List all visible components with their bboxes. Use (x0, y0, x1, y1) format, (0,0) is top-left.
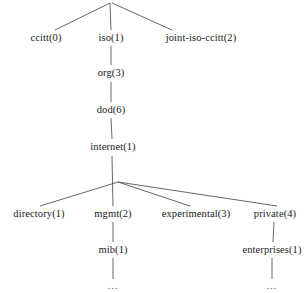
tree-edge (273, 222, 274, 242)
tree-node-directory: directory(1) (13, 209, 64, 220)
tree-edge (40, 182, 118, 206)
tree-edge (110, 3, 111, 30)
tree-node-joint-iso-ccitt: joint-iso-ccitt(2) (166, 33, 237, 44)
tree-node-mib-more: ... (108, 281, 119, 291)
tree-edge (118, 182, 190, 206)
tree-node-enterprises: enterprises(1) (242, 245, 301, 256)
tree-node-dod: dod(6) (97, 105, 126, 116)
tree-node-private: private(4) (254, 209, 296, 220)
tree-node-enterprises-more: ... (267, 281, 278, 291)
tree-edge (112, 3, 172, 30)
tree-node-mgmt: mgmt(2) (94, 209, 131, 220)
tree-edge (118, 182, 277, 206)
tree-edge (112, 156, 113, 206)
tree-node-experimental: experimental(3) (162, 209, 231, 220)
tree-node-org: org(3) (98, 68, 125, 79)
tree-node-mib: mib(1) (98, 245, 127, 256)
tree-edge (55, 3, 110, 30)
tree-edge (111, 118, 112, 139)
tree-node-internet: internet(1) (90, 142, 135, 153)
tree-node-iso: iso(1) (98, 33, 123, 44)
tree-node-ccitt: ccitt(0) (30, 33, 61, 44)
diagram-canvas: ccitt(0)iso(1)joint-iso-ccitt(2)org(3)do… (0, 0, 305, 293)
